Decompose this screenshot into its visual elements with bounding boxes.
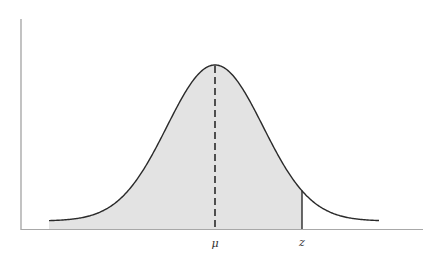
z-label: z (298, 236, 305, 249)
shaded-area-left-of-z (49, 65, 302, 229)
mean-label: μ (211, 237, 218, 250)
normal-distribution-diagram: μ z (0, 0, 438, 263)
